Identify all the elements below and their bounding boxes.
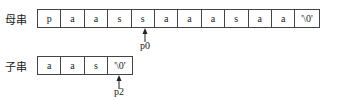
char-cell: a — [38, 57, 61, 74]
char-cell: s — [225, 10, 248, 27]
char-cell: a — [272, 10, 295, 27]
char-cell: a — [178, 10, 201, 27]
char-cell: a — [202, 10, 225, 27]
char-cell: s — [85, 57, 108, 74]
char-cell: a — [61, 57, 84, 74]
char-cell: s — [132, 10, 155, 27]
char-cell: s — [108, 10, 131, 27]
main-string-label: 母串 — [5, 11, 27, 27]
sub-string-row: aas'\0' — [37, 56, 133, 75]
char-cell: a — [85, 10, 108, 27]
char-cell: '\0' — [108, 57, 131, 74]
char-cell: a — [61, 10, 84, 27]
char-cell: a — [249, 10, 272, 27]
char-cell: '\0' — [295, 10, 318, 27]
pointer-p0: p0 — [135, 40, 155, 51]
main-string-row: paassaaasaa'\0' — [37, 9, 320, 28]
sub-string-label: 子串 — [5, 58, 27, 74]
pointer-p2: p2 — [109, 86, 129, 97]
char-cell: a — [155, 10, 178, 27]
char-cell: p — [38, 10, 61, 27]
